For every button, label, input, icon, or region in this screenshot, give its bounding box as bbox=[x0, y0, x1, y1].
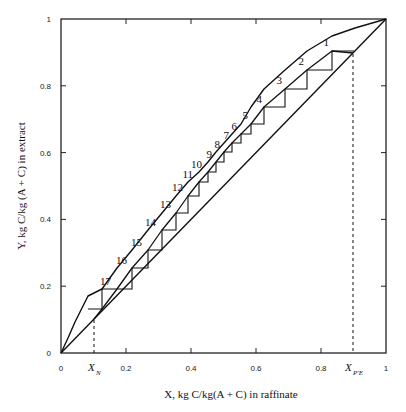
y-tick-label: 0.4 bbox=[40, 215, 52, 224]
stage-label: 4 bbox=[257, 93, 263, 105]
x-tick-label: 0.8 bbox=[315, 364, 327, 373]
stage-label: 2 bbox=[299, 55, 305, 67]
axis-ticks: 00.20.40.60.8100.20.40.60.81 bbox=[40, 15, 389, 373]
x-tick-label: 0.4 bbox=[185, 364, 197, 373]
stage-label: 14 bbox=[145, 216, 157, 228]
stage-label: 17 bbox=[100, 275, 112, 287]
stage-label: 16 bbox=[116, 254, 128, 266]
stage-label: 1 bbox=[324, 36, 330, 48]
stage-label: 13 bbox=[160, 198, 172, 210]
mccabe-thiele-chart: 1234567891011121314151617 00.20.40.60.81… bbox=[0, 0, 406, 412]
stage-label: 7 bbox=[224, 129, 230, 141]
y-tick-label: 0.6 bbox=[40, 149, 52, 158]
stage-label: 3 bbox=[277, 74, 283, 86]
stage-label: 12 bbox=[172, 181, 183, 193]
xpe-subscript: P'E bbox=[352, 369, 364, 377]
x-annotations: XNXP'E bbox=[87, 54, 364, 377]
xpe-label: X bbox=[344, 361, 353, 373]
stage-steps bbox=[88, 51, 354, 309]
stage-label: 8 bbox=[215, 138, 221, 150]
stage-label: 6 bbox=[232, 120, 238, 132]
x-tick-label: 0 bbox=[59, 364, 64, 373]
curves bbox=[61, 19, 386, 353]
xn-subscript: N bbox=[95, 369, 101, 377]
stage-label: 5 bbox=[243, 109, 249, 121]
x-tick-label: 0.2 bbox=[120, 364, 132, 373]
x-tick-label: 0.6 bbox=[250, 364, 262, 373]
stage-label: 9 bbox=[207, 148, 213, 160]
diagonal-line bbox=[61, 19, 386, 353]
y-axis-title: Y, kg C/kg (A + C) in extract bbox=[15, 122, 28, 250]
stage-label: 11 bbox=[182, 168, 193, 180]
y-tick-label: 0.2 bbox=[40, 282, 52, 291]
xn-label: X bbox=[87, 361, 96, 373]
y-tick-label: 1 bbox=[47, 15, 52, 24]
x-axis-title: X, kg C/kg(A + C) in raffinate bbox=[164, 388, 298, 401]
stage-label: 15 bbox=[131, 236, 143, 248]
stage-labels: 1234567891011121314151617 bbox=[100, 36, 329, 287]
x-tick-label: 1 bbox=[384, 364, 389, 373]
y-tick-label: 0 bbox=[47, 349, 52, 358]
y-tick-label: 0.8 bbox=[40, 82, 52, 91]
